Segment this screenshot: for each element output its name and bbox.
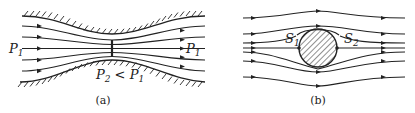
caption-a: (a) xyxy=(95,94,110,107)
top-wall xyxy=(22,16,205,34)
streamline xyxy=(243,11,405,18)
stagnation-point-rear xyxy=(335,46,339,50)
label-throat-pressure: P2 < P1 xyxy=(95,67,144,84)
channel-streamlines xyxy=(22,26,205,71)
flow-diagram: P1 P1 P2 < P1 (a) xyxy=(0,0,415,113)
label-s1: S1 xyxy=(285,31,300,48)
label-p1-outlet: P1 xyxy=(185,41,200,58)
streamline xyxy=(22,37,205,45)
label-p1-inlet: P1 xyxy=(8,41,23,58)
caption-b: (b) xyxy=(310,94,326,107)
label-s2: S2 xyxy=(344,31,359,48)
panel-a-channel-flow: P1 P1 P2 < P1 (a) xyxy=(8,11,205,107)
cylinder xyxy=(299,29,337,67)
streamline xyxy=(22,26,205,40)
top-wall-hatching xyxy=(24,11,202,34)
streamline xyxy=(243,77,405,86)
panel-b-cylinder-flow: S1 S2 (b) xyxy=(243,9,405,107)
